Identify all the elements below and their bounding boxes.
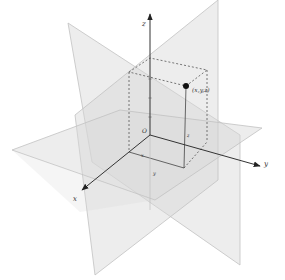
- z-axis-label: z: [141, 20, 146, 28]
- box-label-z-vertical: z: [186, 132, 190, 138]
- point-label: (x,y,z): [192, 86, 210, 94]
- x-axis-label: x: [73, 195, 77, 203]
- box-label-x-front: x: [141, 152, 144, 158]
- diagram-canvas: z x y O (x,y,z) x y z: [0, 0, 285, 280]
- origin-label: O: [142, 127, 147, 134]
- box-label-y-base: y: [152, 170, 156, 177]
- point-xyz: [183, 83, 189, 89]
- y-axis-label: y: [263, 160, 269, 168]
- coordinate-diagram: z x y O (x,y,z) x y z: [0, 0, 285, 280]
